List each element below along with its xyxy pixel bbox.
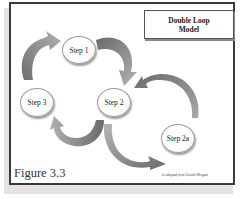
arrow-step2a-to-step2 (134, 74, 199, 118)
node-step-2: Step 2 (97, 88, 131, 117)
node-step-2-label: Step 2 (105, 98, 124, 107)
diagram-title-line1: Double Loop (168, 16, 209, 25)
diagram-canvas: Double Loop Model Step 1 Step 2 Step 3 S… (0, 0, 246, 199)
arrow-step2-to-step2a (104, 124, 166, 170)
node-step-3-label: Step 3 (28, 98, 47, 107)
figure-label: Figure 3.3 (14, 166, 65, 180)
arrow-step1-to-step2 (96, 38, 137, 86)
figure-credit: As adapted from Gareth Morgan (161, 173, 208, 177)
node-step-2a: Step 2a (161, 124, 195, 153)
node-step-2a-label: Step 2a (167, 134, 189, 143)
arrow-step3-to-step1 (22, 31, 61, 80)
node-step-3: Step 3 (20, 88, 54, 117)
diagram-title-line2: Model (179, 25, 199, 34)
arrow-step2-to-step3 (50, 116, 104, 146)
node-step-1: Step 1 (62, 36, 96, 64)
node-step-1-label: Step 1 (70, 46, 89, 55)
diagram-title-box: Double Loop Model (144, 10, 234, 39)
